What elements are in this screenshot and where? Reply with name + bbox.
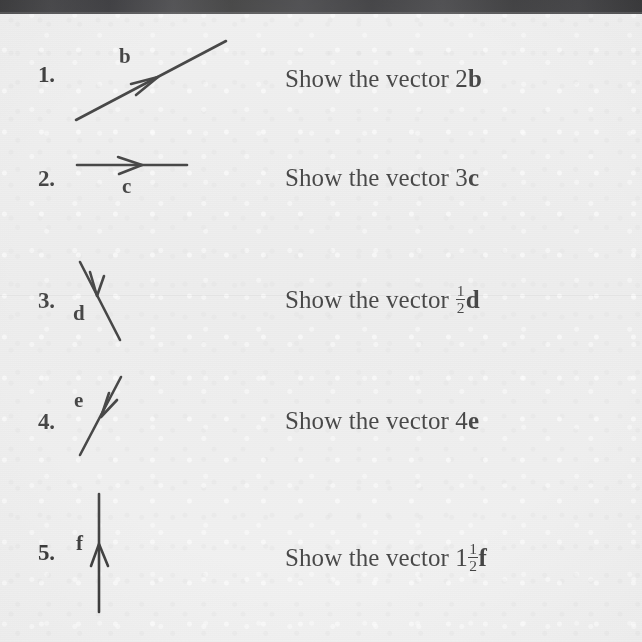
prompt-text-5: Show the vector 112f <box>285 543 487 576</box>
worksheet-page: 1. b Show the vector 2b 2. c <box>0 0 642 642</box>
prompt-fraction-5: 12 <box>468 541 478 574</box>
prompt-coefficient-5: 1 <box>455 544 468 571</box>
fraction-numerator-5: 1 <box>468 541 478 557</box>
fraction-denominator-5: 2 <box>468 557 478 574</box>
prompt-prefix-5: Show the vector <box>285 544 455 571</box>
vector-f-glyph <box>91 494 108 612</box>
prompt-vector-5: f <box>478 544 486 571</box>
